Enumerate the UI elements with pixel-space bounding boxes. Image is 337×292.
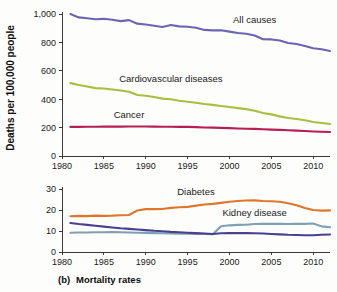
x-tick-label: 1990 bbox=[136, 161, 156, 171]
x-tick-label: 2010 bbox=[303, 161, 323, 171]
y-tick-label: 10 bbox=[46, 226, 56, 236]
series-label: Cardiovascular diseases bbox=[119, 73, 223, 84]
x-tick-label: 1980 bbox=[52, 161, 72, 171]
x-tick-label: 2005 bbox=[261, 257, 281, 267]
series-label: Kidney disease bbox=[222, 207, 286, 218]
x-tick-label: 2010 bbox=[303, 257, 323, 267]
series-label: Cancer bbox=[114, 109, 145, 120]
x-tick-label: 1990 bbox=[136, 257, 156, 267]
y-axis-title: Deaths per 100,000 people bbox=[5, 25, 16, 151]
x-tick-label: 1985 bbox=[94, 257, 114, 267]
mortality-rates-chart: 02004006008001,000 198019851990199520002… bbox=[0, 0, 337, 292]
y-tick-label: 200 bbox=[41, 123, 56, 133]
y-tick-label: 400 bbox=[41, 95, 56, 105]
y-tick-label: 800 bbox=[41, 38, 56, 48]
series-label: Diabetes bbox=[177, 186, 215, 197]
x-tick-label: 1995 bbox=[178, 257, 198, 267]
x-tick-label: 2000 bbox=[219, 161, 239, 171]
x-tick-label: 1985 bbox=[94, 161, 114, 171]
caption-prefix: (b) bbox=[58, 274, 70, 285]
y-tick-label: 20 bbox=[46, 205, 56, 215]
x-tick-label: 2005 bbox=[261, 161, 281, 171]
x-tick-label: 1980 bbox=[52, 257, 72, 267]
y-tick-label: 0 bbox=[51, 151, 56, 161]
x-tick-label: 1995 bbox=[178, 161, 198, 171]
x-tick-label: 2000 bbox=[219, 257, 239, 267]
y-tick-label: 1,000 bbox=[33, 9, 56, 19]
y-tick-label: 0 bbox=[51, 247, 56, 257]
mortality-rates-figure: 02004006008001,000 198019851990199520002… bbox=[0, 0, 337, 292]
series-label: All causes bbox=[233, 14, 277, 25]
y-tick-label: 600 bbox=[41, 66, 56, 76]
caption-label: Mortality rates bbox=[76, 274, 141, 285]
y-tick-label: 30 bbox=[46, 184, 56, 194]
